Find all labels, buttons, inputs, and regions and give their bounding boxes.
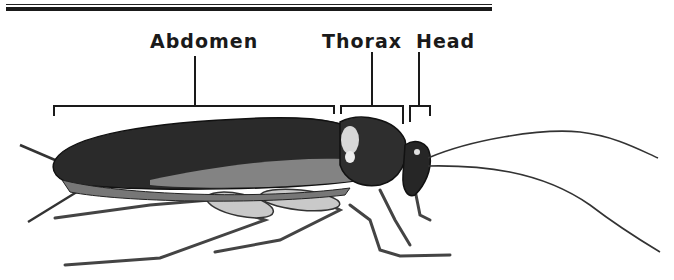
antennae	[428, 131, 660, 252]
bracket-lines	[54, 52, 430, 124]
thorax-pale-patch	[341, 126, 359, 154]
eye-icon	[414, 149, 420, 155]
cockroach-illustration	[0, 0, 674, 280]
thorax-spot	[345, 151, 355, 163]
head-bracket	[410, 106, 430, 122]
abdomen-bracket	[54, 106, 334, 116]
